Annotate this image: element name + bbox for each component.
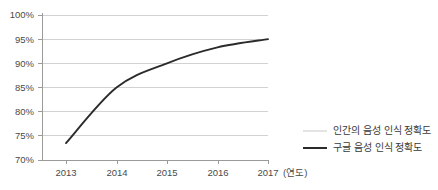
x-tick-label-2015: 2015 — [156, 167, 177, 178]
legend-item-google: 구글 음성 인식 정확도 — [303, 140, 438, 155]
y-tick-label-100: 100% — [10, 9, 35, 20]
legend-swatch-human-icon — [303, 126, 327, 136]
x-axis-caption: (연도) — [283, 167, 307, 178]
chart-legend: 인간의 음성 인식 정확도 구글 음성 인식 정확도 — [303, 123, 438, 157]
legend-label-human: 인간의 음성 인식 정확도 — [333, 124, 431, 137]
legend-swatch-google-icon — [303, 143, 327, 153]
y-tick-label-95: 95% — [15, 34, 35, 45]
chart-plot-area: 100% 95% 90% 85% 80% 75% 70% 2013 2014 2… — [0, 0, 438, 190]
speech-recognition-accuracy-chart: 100% 95% 90% 85% 80% 75% 70% 2013 2014 2… — [0, 0, 438, 190]
y-tick-marks — [38, 15, 42, 160]
legend-item-human: 인간의 음성 인식 정확도 — [303, 123, 438, 138]
series-line-google — [66, 39, 268, 143]
gridlines — [42, 15, 268, 136]
x-tick-label-2017: 2017 — [257, 167, 278, 178]
legend-label-google: 구글 음성 인식 정확도 — [333, 141, 422, 154]
y-tick-label-80: 80% — [15, 106, 35, 117]
y-tick-label-75: 75% — [15, 130, 35, 141]
y-tick-label-70: 70% — [15, 154, 35, 165]
x-tick-label-2013: 2013 — [55, 167, 76, 178]
y-tick-label-90: 90% — [15, 58, 35, 69]
x-tick-label-2016: 2016 — [207, 167, 228, 178]
x-tick-label-2014: 2014 — [106, 167, 127, 178]
y-tick-label-85: 85% — [15, 82, 35, 93]
